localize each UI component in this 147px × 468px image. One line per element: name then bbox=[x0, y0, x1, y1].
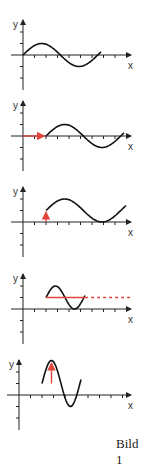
panel-1: xy bbox=[11, 19, 133, 90]
panel-3: xy bbox=[11, 186, 133, 257]
figure-caption: Bild 1 bbox=[116, 436, 147, 468]
y-axis-label: y bbox=[9, 359, 14, 370]
x-axis-label: x bbox=[128, 400, 133, 411]
y-axis-label: y bbox=[13, 273, 18, 284]
sine-curve bbox=[46, 199, 126, 222]
sine-curve bbox=[42, 361, 81, 407]
x-axis-label: x bbox=[128, 60, 133, 71]
x-axis-label: x bbox=[128, 227, 133, 238]
y-axis-label: y bbox=[13, 19, 18, 30]
y-axis-label: y bbox=[13, 186, 18, 197]
panel-2: xy bbox=[11, 100, 133, 171]
x-axis-label: x bbox=[128, 141, 133, 152]
y-axis-label: y bbox=[13, 100, 18, 111]
panel-4: xy bbox=[11, 273, 133, 344]
x-axis-label: x bbox=[128, 314, 133, 325]
panel-5: xy bbox=[7, 359, 133, 430]
